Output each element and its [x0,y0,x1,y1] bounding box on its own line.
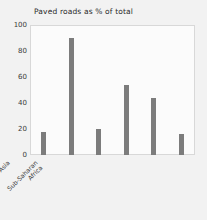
y-axis-tick-label: 20 [18,125,27,133]
y-axis-tick-label: 40 [18,99,27,107]
bar [151,98,156,155]
bar [179,134,184,155]
bar [41,132,46,155]
x-axis: East Asia& PacificEurope &Central AsiaLa… [30,155,207,220]
bar-chart-figure: Paved roads as % of total 020406080100 E… [0,0,207,220]
bars-layer [30,25,195,155]
y-axis-tick-label: 80 [18,47,27,55]
y-axis-tick-label: 60 [18,73,27,81]
bar [124,85,129,155]
bar [96,129,101,155]
y-axis-tick-label: 0 [23,151,27,159]
bar [69,38,74,155]
y-axis-tick-label: 100 [14,21,27,29]
chart-title: Paved roads as % of total [34,7,133,16]
